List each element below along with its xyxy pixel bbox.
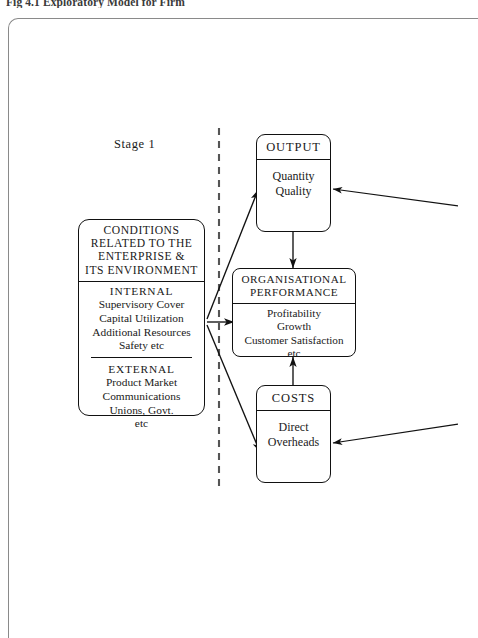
internal-external-divider bbox=[91, 357, 192, 358]
conditions-header-line-2: RELATED TO THE bbox=[81, 237, 202, 250]
orgperf-item-2: Growth bbox=[235, 320, 353, 333]
external-item-3: Unions, Govt. bbox=[80, 404, 203, 418]
internal-section-title: INTERNAL bbox=[80, 285, 203, 299]
output-item-2: Quality bbox=[260, 184, 327, 199]
costs-box: COSTS Direct Overheads bbox=[256, 385, 331, 483]
output-item-1: Quantity bbox=[260, 169, 327, 184]
costs-box-header: COSTS bbox=[257, 386, 330, 411]
orgperf-item-3: Customer Satisfaction bbox=[235, 334, 353, 347]
conditions-internal-section: INTERNAL Supervisory Cover Capital Utili… bbox=[79, 282, 204, 355]
arrow-external-input-to-costs bbox=[333, 424, 458, 443]
arrow-external-input-to-output bbox=[333, 189, 458, 206]
organisational-performance-header: ORGANISATIONAL PERFORMANCE bbox=[233, 269, 355, 304]
internal-item-4: Safety etc bbox=[80, 339, 203, 353]
internal-item-2: Capital Utilization bbox=[80, 312, 203, 326]
conditions-box: CONDITIONS RELATED TO THE ENTERPRISE & I… bbox=[78, 219, 205, 416]
internal-item-1: Supervisory Cover bbox=[80, 298, 203, 312]
organisational-performance-body: Profitability Growth Customer Satisfacti… bbox=[233, 304, 355, 364]
orgperf-item-1: Profitability bbox=[235, 307, 353, 320]
conditions-header-line-1: CONDITIONS bbox=[81, 224, 202, 237]
external-item-1: Product Market bbox=[80, 376, 203, 390]
external-item-4: etc bbox=[80, 417, 203, 431]
external-section-title: EXTERNAL bbox=[80, 363, 203, 377]
output-box: OUTPUT Quantity Quality bbox=[256, 134, 331, 232]
conditions-header-line-3: ENTERPRISE & bbox=[81, 250, 202, 263]
output-box-header: OUTPUT bbox=[257, 135, 330, 160]
conditions-header-line-4: ITS ENVIRONMENT bbox=[81, 264, 202, 277]
orgperf-item-4: etc bbox=[235, 347, 353, 360]
orgperf-header-line-1: ORGANISATIONAL bbox=[235, 273, 353, 286]
external-item-2: Communications bbox=[80, 390, 203, 404]
orgperf-header-line-2: PERFORMANCE bbox=[235, 286, 353, 299]
organisational-performance-box: ORGANISATIONAL PERFORMANCE Profitability… bbox=[232, 268, 356, 357]
stage-label: Stage 1 bbox=[114, 137, 155, 152]
costs-item-1: Direct bbox=[260, 420, 327, 435]
conditions-box-header: CONDITIONS RELATED TO THE ENTERPRISE & I… bbox=[79, 220, 204, 282]
output-box-body: Quantity Quality bbox=[257, 160, 330, 205]
costs-item-2: Overheads bbox=[260, 435, 327, 450]
conditions-external-section: EXTERNAL Product Market Communications U… bbox=[79, 360, 204, 434]
costs-box-body: Direct Overheads bbox=[257, 411, 330, 456]
internal-item-3: Additional Resources bbox=[80, 326, 203, 340]
